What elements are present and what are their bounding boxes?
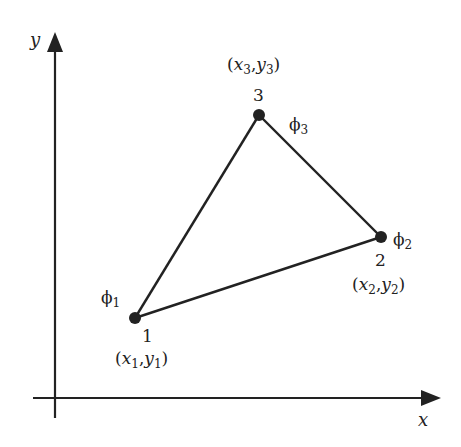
node-1-phi-label: ϕ1 [101, 287, 120, 310]
node-2-phi-label: ϕ2 [393, 229, 412, 252]
node-3-number: 3 [253, 85, 264, 105]
x-axis-label: x [418, 409, 428, 430]
node-1-coordinates: (x1,y1) [115, 348, 168, 371]
node-1-dot-icon [129, 312, 141, 324]
edge-1-2 [135, 237, 381, 318]
node-1: ϕ1 1 (x1,y1) [101, 287, 168, 371]
node-1-number: 1 [142, 326, 153, 346]
triangle-element-diagram: y x ϕ1 1 (x1,y1) ϕ2 2 (x2,y2) [0, 0, 461, 447]
y-axis: y [29, 29, 63, 418]
x-axis: x [33, 390, 441, 430]
triangle-edges [135, 115, 381, 318]
node-2: ϕ2 2 (x2,y2) [352, 229, 412, 297]
node-2-coordinates: (x2,y2) [352, 274, 405, 297]
node-3-phi-label: ϕ3 [289, 114, 308, 137]
node-3-dot-icon [253, 109, 265, 121]
y-axis-label: y [29, 29, 41, 50]
edge-3-1 [135, 115, 259, 318]
y-axis-arrow-icon [47, 32, 63, 52]
node-2-dot-icon [375, 231, 387, 243]
node-2-number: 2 [375, 250, 386, 270]
diagram-svg: y x ϕ1 1 (x1,y1) ϕ2 2 (x2,y2) [0, 0, 461, 447]
edge-2-3 [259, 115, 381, 237]
x-axis-arrow-icon [421, 390, 441, 406]
node-3-coordinates: (x3,y3) [227, 54, 280, 77]
